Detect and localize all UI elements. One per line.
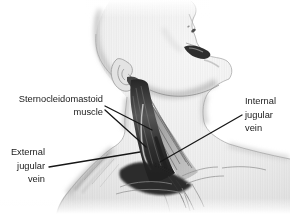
label-internal-jugular-vein: Internal jugular vein bbox=[245, 95, 276, 136]
label-line: vein bbox=[11, 173, 45, 187]
top-fade bbox=[85, 0, 210, 18]
label-line: muscle bbox=[19, 106, 103, 119]
bottom-fade bbox=[0, 198, 290, 214]
label-line: Sternocleidomastoid bbox=[19, 93, 103, 106]
medical-illustration: Sternocleidomastoid muscle Internal jugu… bbox=[0, 0, 290, 214]
label-line: jugular bbox=[245, 109, 276, 123]
label-external-jugular-vein: External jugular vein bbox=[11, 146, 45, 187]
label-line: vein bbox=[245, 122, 276, 136]
label-line: External bbox=[11, 146, 45, 160]
label-line: jugular bbox=[11, 160, 45, 174]
label-line: Internal bbox=[245, 95, 276, 109]
label-sternocleidomastoid-muscle: Sternocleidomastoid muscle bbox=[19, 93, 103, 119]
